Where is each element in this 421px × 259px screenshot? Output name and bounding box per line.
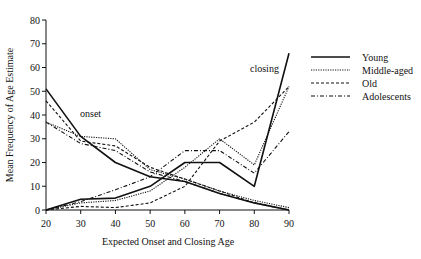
- line-chart: 010203040506070802030405060708090 YoungM…: [0, 0, 421, 259]
- x-tick-label: 70: [215, 218, 225, 229]
- x-tick-label: 20: [41, 218, 51, 229]
- series-onset-adolescents: [46, 122, 289, 210]
- y-axis-title: Mean Frequency of Age Estimate: [4, 47, 15, 182]
- y-tick-label: 10: [30, 181, 40, 192]
- legend-label: Old: [362, 78, 377, 89]
- x-tick-label: 60: [180, 218, 190, 229]
- y-tick-label: 40: [30, 110, 40, 121]
- legend-label: Middle-aged: [362, 65, 413, 76]
- x-tick-label: 50: [145, 218, 155, 229]
- legend-item-old: Old: [311, 78, 377, 89]
- y-tick-label: 50: [30, 86, 40, 97]
- x-tick-label: 80: [249, 218, 259, 229]
- closing-annotation: closing: [250, 63, 279, 74]
- x-axis-title: Expected Onset and Closing Age: [102, 236, 235, 247]
- legend-label: Adolescents: [362, 91, 411, 102]
- x-tick-label: 40: [110, 218, 120, 229]
- x-tick-label: 90: [284, 218, 294, 229]
- x-tick-label: 30: [76, 218, 86, 229]
- y-tick-label: 30: [30, 133, 40, 144]
- onset-annotation: onset: [80, 108, 101, 119]
- chart-series: [46, 53, 289, 210]
- series-onset-middle-aged: [46, 122, 289, 208]
- y-tick-label: 70: [30, 38, 40, 49]
- y-tick-label: 60: [30, 62, 40, 73]
- series-closing-young: [46, 53, 289, 210]
- series-closing-old: [46, 87, 289, 211]
- series-closing-middle-aged: [46, 87, 289, 211]
- y-tick-label: 20: [30, 157, 40, 168]
- y-tick-label: 80: [30, 15, 40, 26]
- legend-label: Young: [362, 52, 388, 63]
- legend-item-young: Young: [311, 52, 388, 63]
- legend-item-adolescents: Adolescents: [311, 91, 411, 102]
- legend-item-middle-aged: Middle-aged: [311, 65, 413, 76]
- chart-legend: YoungMiddle-agedOldAdolescents: [311, 52, 413, 102]
- y-tick-label: 0: [35, 205, 40, 216]
